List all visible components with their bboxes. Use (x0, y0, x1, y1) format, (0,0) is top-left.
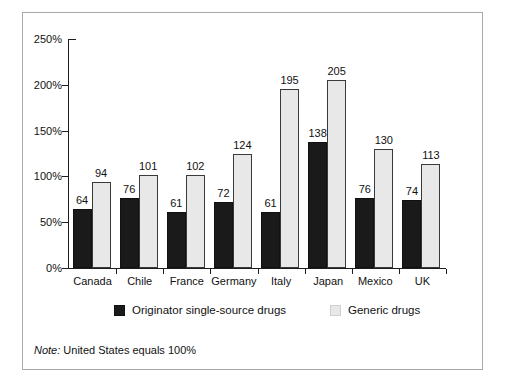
note-prefix: Note: (34, 344, 60, 356)
bar-value-label: 113 (415, 150, 446, 161)
x-axis-tick (305, 269, 306, 274)
bar (374, 149, 393, 268)
bar-value-label: 94 (86, 168, 117, 179)
bar (139, 175, 158, 268)
y-axis-tick (62, 85, 69, 86)
bar (402, 200, 421, 268)
figure: 0%50%100%150%200%250% 649476101611027212… (0, 0, 507, 391)
y-axis-tick-label: 100% (34, 171, 62, 182)
y-axis-tick-label: 50% (40, 217, 62, 228)
y-axis-tick-label: 150% (34, 126, 62, 137)
bar-value-label: 205 (321, 66, 352, 77)
bar (355, 198, 374, 268)
y-axis-tick (62, 176, 69, 177)
y-axis-tick-label: 250% (34, 34, 62, 45)
bar (421, 164, 440, 268)
x-axis-tick (352, 269, 353, 274)
bar (167, 212, 186, 268)
bar (73, 209, 92, 268)
y-axis-tick (69, 39, 76, 40)
bar (92, 182, 111, 268)
bar-value-label: 124 (227, 140, 258, 151)
y-axis-tick (62, 222, 69, 223)
legend-label: Generic drugs (348, 304, 420, 317)
bar (280, 89, 299, 268)
note-text: United States equals 100% (63, 344, 196, 356)
bar-value-label: 130 (368, 135, 399, 146)
bar (327, 80, 346, 268)
x-axis-tick (163, 269, 164, 274)
legend-swatch (114, 305, 125, 316)
y-axis-tick-label: 200% (34, 80, 62, 91)
bar (261, 212, 280, 268)
bar (120, 198, 139, 268)
legend-label: Originator single-source drugs (132, 304, 286, 317)
y-axis-tick-label: 0% (46, 263, 62, 274)
chart-legend: Originator single-source drugsGeneric dr… (22, 303, 483, 323)
bar (186, 175, 205, 268)
bar (233, 154, 252, 268)
bar (214, 202, 233, 268)
y-axis-line (68, 39, 69, 269)
bar-value-label: 195 (274, 75, 305, 86)
bar (308, 142, 327, 268)
bar-value-label: 102 (180, 161, 211, 172)
category-label: UK (393, 276, 452, 287)
bar-value-label: 101 (133, 161, 164, 172)
x-axis-tick (258, 269, 259, 274)
x-axis-line (68, 268, 446, 269)
legend-swatch (330, 305, 341, 316)
y-axis-tick (62, 268, 69, 269)
x-axis-tick (116, 269, 117, 274)
y-axis-tick (62, 131, 69, 132)
chart-note: Note: United States equals 100% (34, 344, 196, 357)
y-axis-tick-labels: 0%50%100%150%200%250% (0, 0, 62, 391)
x-axis-tick (399, 269, 400, 274)
x-axis-tick (446, 269, 447, 274)
x-axis-tick (210, 269, 211, 274)
